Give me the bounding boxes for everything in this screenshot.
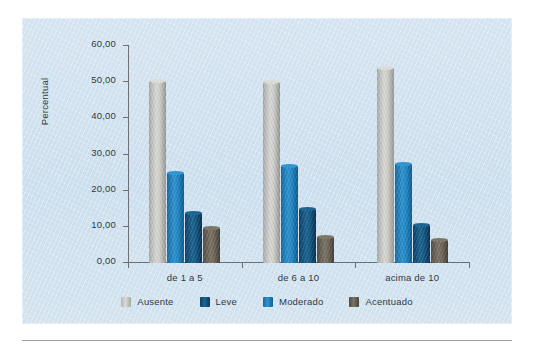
figure-divider-rule xyxy=(22,340,512,341)
legend-swatch-acentuado xyxy=(349,297,359,307)
bar-top-cap xyxy=(281,164,298,168)
bar-acentuado-de-6-a-10[interactable] xyxy=(317,237,334,263)
legend-label-acentuado: Acentuado xyxy=(365,296,412,307)
legend-label-ausente: Ausente xyxy=(137,296,173,307)
bar-top-cap xyxy=(263,80,280,84)
bar-leve-de-1-a-5[interactable] xyxy=(185,213,202,263)
bar-ausente-de-1-a-5[interactable] xyxy=(149,81,166,263)
bar-top-cap xyxy=(413,223,430,227)
legend-item-ausente[interactable]: Ausente xyxy=(121,296,173,307)
bar-ausente-acima-de-10[interactable] xyxy=(377,68,394,263)
bar-top-cap xyxy=(431,238,448,242)
y-axis-tick-label: 40,00 xyxy=(91,110,116,121)
bar-top-cap xyxy=(377,66,394,70)
y-axis-tick-label: 50,00 xyxy=(91,74,116,85)
bar-moderado-de-1-a-5[interactable] xyxy=(167,173,184,263)
bar-acentuado-acima-de-10[interactable] xyxy=(431,240,448,263)
y-axis-tick-label: 60,00 xyxy=(91,38,116,49)
x-axis-tick-mark xyxy=(469,262,470,268)
figure-page: Percentual 0,0010,0020,0030,0040,0050,00… xyxy=(0,0,534,350)
legend-item-leve[interactable]: Leve xyxy=(200,296,237,307)
bar-group-de-6-a-10 xyxy=(242,45,356,263)
bar-top-cap xyxy=(395,162,412,166)
chart-legend: AusenteLeveModeradoAcentuado xyxy=(22,296,512,307)
legend-swatch-ausente xyxy=(121,297,131,307)
bar-acentuado-de-1-a-5[interactable] xyxy=(203,228,220,263)
y-axis-tick-label: 0,00 xyxy=(97,255,116,266)
x-axis-label-de-1-a-5: de 1 a 5 xyxy=(128,272,242,283)
legend-swatch-leve xyxy=(200,297,210,307)
legend-item-acentuado[interactable]: Acentuado xyxy=(349,296,412,307)
bar-groups xyxy=(128,45,469,263)
bar-moderado-acima-de-10[interactable] xyxy=(395,164,412,263)
legend-label-moderado: Moderado xyxy=(279,296,323,307)
x-axis-category-labels: de 1 a 5de 6 a 10acima de 10 xyxy=(128,272,469,283)
bar-ausente-de-6-a-10[interactable] xyxy=(263,82,280,263)
legend-swatch-moderado xyxy=(263,297,273,307)
bar-leve-de-6-a-10[interactable] xyxy=(299,209,316,263)
bar-top-cap xyxy=(167,171,184,175)
bar-moderado-de-6-a-10[interactable] xyxy=(281,166,298,263)
bar-group-acima-de-10 xyxy=(355,45,469,263)
x-axis-label-de-6-a-10: de 6 a 10 xyxy=(242,272,356,283)
bar-group-de-1-a-5 xyxy=(128,45,242,263)
bar-top-cap xyxy=(203,226,220,230)
y-axis-title: Percentual xyxy=(39,42,50,162)
y-axis-tick-label: 10,00 xyxy=(91,219,116,230)
y-axis-tick-label: 30,00 xyxy=(91,147,116,158)
x-axis-label-acima-de-10: acima de 10 xyxy=(355,272,469,283)
bar-leve-acima-de-10[interactable] xyxy=(413,225,430,263)
legend-item-moderado[interactable]: Moderado xyxy=(263,296,323,307)
bar-top-cap xyxy=(185,211,202,215)
legend-label-leve: Leve xyxy=(216,296,237,307)
bar-top-cap xyxy=(149,79,166,83)
y-axis-tick-label: 20,00 xyxy=(91,183,116,194)
bar-top-cap xyxy=(317,235,334,239)
bar-top-cap xyxy=(299,207,316,211)
